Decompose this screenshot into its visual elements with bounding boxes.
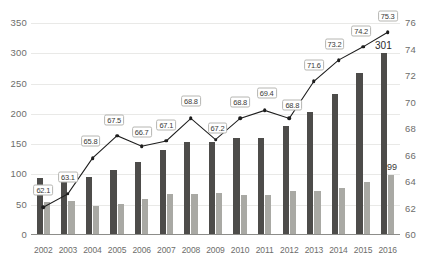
right-axis-tick-label: 66 (405, 150, 436, 161)
x-axis-tick-label: 2013 (302, 245, 327, 255)
line-marker (386, 31, 390, 35)
x-axis-tick-label: 2002 (31, 245, 56, 255)
line-marker (312, 80, 316, 84)
x-axis-tick-label: 2014 (326, 245, 351, 255)
x-axis-tick-label: 2012 (277, 245, 302, 255)
left-axis-tick-label: 200 (0, 108, 27, 119)
line-data-label: 73.2 (325, 39, 345, 50)
line-marker (91, 156, 95, 160)
right-axis-tick-label: 62 (405, 203, 436, 214)
line-data-label: 67.2 (208, 122, 228, 133)
line-data-label: 67.5 (104, 114, 124, 125)
left-axis-tick-label: 0 (0, 229, 27, 240)
right-axis-tick-label: 72 (405, 70, 436, 81)
bar-secondary-label: 99 (387, 162, 397, 172)
x-axis-line (31, 234, 400, 235)
line-marker (337, 58, 341, 62)
line-marker (140, 144, 144, 148)
left-axis-tick-label: 100 (0, 168, 27, 179)
line-data-label: 68.8 (282, 100, 302, 111)
line-data-label: 68.8 (230, 97, 250, 108)
line-marker (189, 117, 193, 121)
left-axis-tick-label: 150 (0, 138, 27, 149)
line-marker (238, 117, 242, 121)
left-axis-tick-label: 250 (0, 78, 27, 89)
left-axis-tick-label: 300 (0, 47, 27, 58)
x-axis-tick-label: 2004 (80, 245, 105, 255)
line-data-label: 69.4 (257, 88, 277, 99)
x-axis-tick-label: 2008 (179, 245, 204, 255)
line-marker (165, 139, 169, 143)
right-axis-tick-label: 74 (405, 44, 436, 55)
line-marker (288, 117, 292, 121)
x-axis-tick-label: 2009 (203, 245, 228, 255)
line-marker (263, 109, 267, 113)
x-axis-tick-label: 2003 (56, 245, 81, 255)
line-data-label: 71.6 (304, 60, 324, 71)
line-marker (361, 45, 365, 49)
bar-primary-label: 301 (375, 40, 392, 51)
line-data-label: 67.1 (156, 119, 176, 130)
right-axis-tick-label: 60 (405, 229, 436, 240)
line-data-label: 65.8 (81, 136, 101, 147)
line-marker (42, 205, 46, 209)
line-data-label: 74.2 (351, 25, 371, 36)
line-data-label: 63.1 (58, 171, 78, 182)
plot-area: 62.163.165.867.566.767.168.867.268.869.4… (31, 23, 400, 235)
line-marker (66, 192, 70, 196)
x-axis-tick-label: 2011 (252, 245, 277, 255)
x-axis-tick-label: 2006 (129, 245, 154, 255)
left-axis-tick-label: 50 (0, 199, 27, 210)
line-data-label: 75.3 (378, 11, 398, 22)
right-axis-tick-label: 70 (405, 97, 436, 108)
x-axis-tick-label: 2015 (351, 245, 376, 255)
line-data-label: 66.7 (132, 127, 152, 138)
right-axis-tick-label: 68 (405, 123, 436, 134)
line-marker (115, 134, 119, 138)
x-axis-tick-label: 2016 (375, 245, 400, 255)
x-axis-tick-label: 2005 (105, 245, 130, 255)
line-data-label: 62.1 (33, 185, 53, 196)
combo-chart: 050100150200250300350 606264666870727476… (0, 0, 436, 266)
right-axis-tick-label: 64 (405, 176, 436, 187)
right-axis-tick-label: 76 (405, 17, 436, 28)
line-data-label: 68.8 (181, 96, 201, 107)
left-axis-tick-label: 350 (0, 17, 27, 28)
line-marker (214, 138, 218, 142)
x-axis-tick-label: 2007 (154, 245, 179, 255)
x-axis-tick-label: 2010 (228, 245, 253, 255)
